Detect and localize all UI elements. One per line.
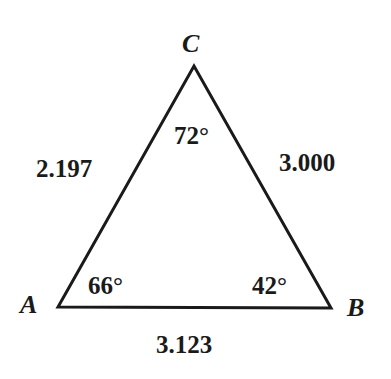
angle-label-c: 72° — [174, 122, 209, 149]
vertex-label-a: A — [18, 290, 37, 319]
side-label-bc: 3.000 — [279, 149, 335, 176]
vertex-label-b: B — [346, 293, 364, 322]
vertex-label-c: C — [182, 29, 200, 58]
side-label-ab: 3.123 — [156, 331, 212, 358]
angle-label-b: 42° — [252, 272, 287, 299]
side-label-ac: 2.197 — [36, 155, 92, 182]
triangle-diagram: C A B 72° 66° 42° 2.197 3.000 3.123 — [0, 0, 391, 379]
angle-label-a: 66° — [88, 272, 123, 299]
